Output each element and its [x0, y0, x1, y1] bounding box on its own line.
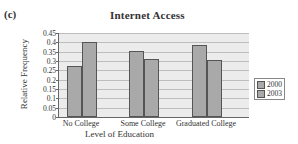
legend: 2000 2003 [254, 78, 285, 100]
x-category-label: Graduated College [176, 119, 236, 128]
y-tick-label: 0 [26, 113, 56, 122]
y-tick [56, 33, 59, 34]
y-tick [56, 98, 59, 99]
y-tick [56, 70, 59, 71]
y-tick [56, 61, 59, 62]
gridline [59, 33, 249, 34]
y-tick-label: 0.05 [26, 103, 56, 112]
y-tick [56, 117, 59, 118]
y-tick [56, 80, 59, 81]
x-axis-label: Level of Education [85, 129, 154, 139]
bar-2003 [82, 42, 97, 117]
y-tick-label: 0.25 [26, 66, 56, 75]
y-tick [56, 108, 59, 109]
figure-label: (c) [4, 8, 16, 20]
bar-2003 [207, 60, 222, 117]
legend-item-2000: 2000 [257, 80, 282, 89]
bar-2000 [129, 51, 144, 117]
y-tick-label: 0.35 [26, 47, 56, 56]
y-tick [56, 42, 59, 43]
plot-area [58, 33, 249, 118]
bar-2000 [67, 66, 82, 117]
chart-title: Internet Access [110, 9, 185, 21]
bar-2000 [192, 45, 207, 117]
y-tick-label: 0.1 [26, 94, 56, 103]
y-tick [56, 89, 59, 90]
y-tick-label: 0.2 [26, 75, 56, 84]
x-category-label: Some College [120, 119, 165, 128]
y-tick-label: 0.3 [26, 57, 56, 66]
y-tick [56, 52, 59, 53]
bar-2003 [144, 59, 159, 117]
legend-swatch-icon [257, 81, 265, 89]
legend-swatch-icon [257, 90, 265, 98]
y-tick-label: 0.4 [26, 38, 56, 47]
y-tick-label: 0.45 [26, 29, 56, 38]
y-tick-label: 0.15 [26, 85, 56, 94]
x-category-label: No College [63, 119, 100, 128]
legend-item-2003: 2003 [257, 89, 282, 98]
